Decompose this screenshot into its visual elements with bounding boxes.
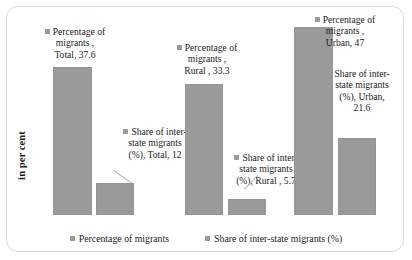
square-marker-icon [205,236,210,241]
bar-urban-percentage-of-migrants [294,27,333,215]
callout-total-percentage-of-migrants: Percentage of migrants , Total, 37.6 [20,26,130,60]
y-axis-title: in per cent [16,118,27,194]
legend-item-percentage-of-migrants[interactable]: Percentage of migrants [70,233,169,244]
callout-line: state migrants [316,79,408,90]
chart-root: in per cent Percentage of migrants , Tot… [0,0,412,260]
callout-line: migrants , [20,37,130,48]
callout-urban-percentage-of-migrants: Percentage of migrants , Urban, 47 [286,14,404,48]
callout-line: Total, 37.6 [20,49,130,60]
square-marker-icon [177,45,182,50]
callout-line: Rural , 33.3 [152,65,262,76]
leader-line-total-share [114,170,132,184]
bar-rural-share-inter-state [228,199,266,215]
callout-line: Percentage of [20,26,130,37]
plot-area: in per cent Percentage of migrants , Tot… [0,0,412,260]
bar-urban-share-inter-state [338,138,376,215]
callout-line: Urban, 47 [286,37,404,48]
legend-label: Share of inter-state migrants (%) [214,233,342,244]
square-marker-icon [70,236,75,241]
chart-legend: Percentage of migrants Share of inter-st… [0,233,412,244]
callout-line: Percentage of [286,14,404,25]
callout-line: Share of inter- [316,68,408,79]
callout-line: (%), Urban, [316,91,408,102]
square-marker-icon [234,155,239,160]
bar-rural-percentage-of-migrants [185,84,223,215]
callout-rural-percentage-of-migrants: Percentage of migrants , Rural , 33.3 [152,42,262,76]
square-marker-icon [45,29,50,34]
callout-urban-share-inter-state: Share of inter- state migrants (%), Urba… [316,68,408,114]
callout-line: migrants , [286,25,404,36]
callout-line: 21.6 [316,102,408,113]
callout-line: migrants , [152,53,262,64]
square-marker-icon [315,17,320,22]
callout-line: Percentage of [152,42,262,53]
square-marker-icon [123,129,128,134]
bar-total-share-inter-state [96,183,134,215]
bar-total-percentage-of-migrants [53,67,92,215]
legend-label: Percentage of migrants [79,233,169,244]
legend-item-share-inter-state-migrants[interactable]: Share of inter-state migrants (%) [205,233,342,244]
